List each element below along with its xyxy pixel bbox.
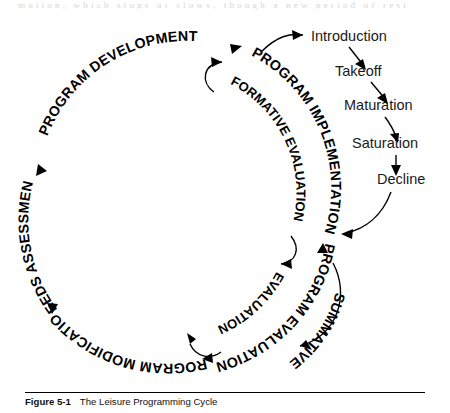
- arrow-development-to-implementation: [230, 44, 242, 54]
- stage-label-decline: Decline: [377, 171, 425, 187]
- arrow-decline-to-cycle: [341, 192, 391, 239]
- figure-caption: Figure 5-1The Leisure Programming Cycle: [25, 396, 445, 413]
- figure-container: motion, which stops or slows, though a n…: [0, 0, 450, 413]
- cycle-diagram: PROGRAM DEVELOPMENT NEEDS ASSESSMENT PRO…: [0, 0, 450, 413]
- figure-number: Figure 5-1: [25, 396, 71, 407]
- arrow-evaluation-feedback: [281, 236, 296, 269]
- figure-title: The Leisure Programming Cycle: [80, 396, 218, 407]
- stage-label-introduction: Introduction: [311, 28, 387, 44]
- arc-label-program-development: PROGRAM DEVELOPMENT: [35, 28, 198, 138]
- caption-rule: [25, 392, 425, 393]
- arc-label-needs-assessment: NEEDS ASSESSMENT: [0, 0, 60, 317]
- stage-label-saturation: Saturation: [352, 135, 418, 151]
- arc-label-program-evaluation: PROGRAM EVALUATION: [214, 242, 338, 375]
- arrow-to-introduction: [261, 30, 303, 52]
- arrow-evaluation-inner-hook: [187, 333, 221, 356]
- stage-label-maturation: Maturation: [344, 97, 413, 113]
- arrow-formative-feedback: [205, 57, 222, 92]
- arrow-needs-to-development: [36, 164, 47, 176]
